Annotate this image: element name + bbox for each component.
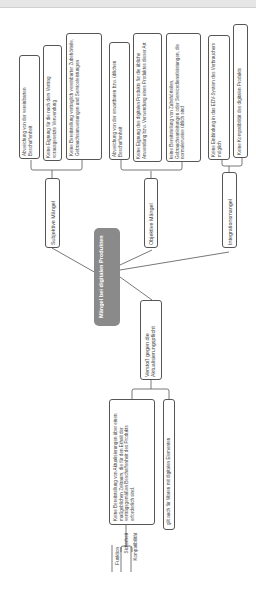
branch-integrationsmangel: Integrationsmangel (222, 172, 237, 248)
leaf-objektiv-2: Keine Eignung des digitalen Produkts für… (133, 33, 162, 162)
leaf-aktualisierung-1: Keine Bereitstellung von Aktualisierunge… (109, 399, 155, 525)
sublist-funktion: Funktion (115, 547, 120, 565)
sublist-sicherheit: Sicherheit (124, 533, 129, 553)
sublist-kompatibilitaet: Kompatibilität (133, 533, 138, 561)
leaf-subjektiv-2: Keine Eignung für die nach dem Vertrag v… (43, 45, 62, 161)
leaf-objektiv-1: Abweichung von der erwartbaren bzw. übli… (109, 42, 130, 160)
central-node: Mängel bei digitalen Produkten (94, 228, 120, 326)
leaf-objektiv-3: keine Bereitstellung von Zubehörteilen, … (166, 33, 201, 162)
leaf-subjektiv-1: Abweichung von der vereinbarten Beschaff… (19, 55, 40, 159)
leaf-integration-1: Keine Einbindung in das EDV-System des V… (208, 35, 230, 160)
leaf-subjektiv-3: Keine Bereitstellung vertraglich vereinb… (66, 33, 102, 160)
branch-objektive-maengel: Objektive Mängel (144, 178, 158, 248)
branch-subjektive-maengel: Subjektive Mängel (45, 178, 60, 248)
branch-aktualisierungspflicht: Verstoß gegen die Aktualisierungspflicht (140, 300, 162, 380)
leaf-integration-2: Keine Kompatibilität des digitalen Produ… (233, 24, 248, 158)
leaf-aktualisierung-2: gilt auch für Waren mit digitalen Elemen… (163, 399, 175, 530)
